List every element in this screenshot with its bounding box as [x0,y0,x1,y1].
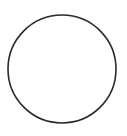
diagram-canvas [0,0,127,136]
circle-outline [8,15,116,123]
